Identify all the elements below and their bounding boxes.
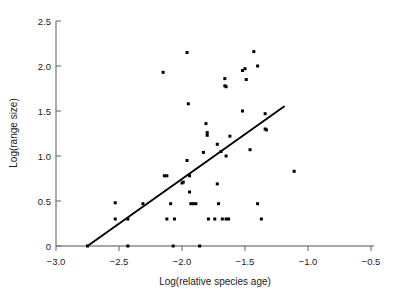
data-point xyxy=(213,218,216,221)
data-point xyxy=(228,135,231,138)
y-tick-label: 0 xyxy=(46,241,51,252)
data-point xyxy=(169,202,172,205)
plot-canvas: 2.5 2.0 1.5 1.0 0.5 0 −3.0 −2.5 −2.0 −1.… xyxy=(0,0,396,295)
data-points-group xyxy=(86,50,296,247)
data-point xyxy=(256,202,259,205)
x-axis-title: Log(relative species age) xyxy=(159,276,271,287)
data-point xyxy=(172,245,175,248)
data-point xyxy=(264,112,267,115)
y-axis-ticks xyxy=(56,21,61,246)
data-point xyxy=(206,131,209,134)
x-tick-label: −2.5 xyxy=(110,256,129,267)
data-point xyxy=(216,182,219,185)
y-tick-label: 1.5 xyxy=(38,106,51,117)
data-point xyxy=(293,170,296,173)
x-tick-label: −1.5 xyxy=(236,256,255,267)
x-axis-tick-labels: −3.0 −2.5 −2.0 −1.5 −1.0 −0.5 xyxy=(47,256,381,267)
data-point xyxy=(188,174,191,177)
data-point xyxy=(182,181,185,184)
data-point xyxy=(244,67,247,70)
data-point xyxy=(188,191,191,194)
data-point xyxy=(198,245,201,248)
x-tick-label: −2.0 xyxy=(173,256,192,267)
data-point xyxy=(207,218,210,221)
data-point xyxy=(162,71,165,74)
data-point xyxy=(126,245,129,248)
data-point xyxy=(225,155,228,158)
y-axis-title: Log(range size) xyxy=(8,98,19,167)
data-point xyxy=(260,218,263,221)
data-point xyxy=(221,218,224,221)
data-point xyxy=(186,159,189,162)
data-point xyxy=(114,218,117,221)
data-point xyxy=(223,77,226,80)
x-tick-label: −3.0 xyxy=(47,256,66,267)
regression-line xyxy=(88,107,285,247)
data-point xyxy=(249,148,252,151)
y-tick-label: 2.0 xyxy=(38,61,51,72)
data-point xyxy=(165,174,168,177)
data-point xyxy=(252,50,255,53)
data-point xyxy=(220,150,223,153)
data-point xyxy=(202,151,205,154)
x-axis-ticks xyxy=(56,246,371,251)
x-tick-label: −0.5 xyxy=(362,256,381,267)
data-point xyxy=(114,201,117,204)
x-tick-label: −1.0 xyxy=(299,256,318,267)
data-point xyxy=(204,122,207,125)
data-point xyxy=(256,65,259,68)
data-point xyxy=(206,134,209,137)
y-axis-tick-labels: 2.5 2.0 1.5 1.0 0.5 0 xyxy=(38,16,51,252)
scatter-plot-figure: 2.5 2.0 1.5 1.0 0.5 0 −3.0 −2.5 −2.0 −1.… xyxy=(0,0,396,295)
data-point xyxy=(217,202,220,205)
data-point xyxy=(187,102,190,105)
data-point xyxy=(126,218,129,221)
data-point xyxy=(86,245,89,248)
data-point xyxy=(265,128,268,131)
data-point xyxy=(245,78,248,81)
y-tick-label: 0.5 xyxy=(38,196,51,207)
data-point xyxy=(173,218,176,221)
data-point xyxy=(186,51,189,54)
data-point xyxy=(227,218,230,221)
data-point xyxy=(141,202,144,205)
data-point xyxy=(241,110,244,113)
data-point xyxy=(165,218,168,221)
data-point xyxy=(225,85,228,88)
y-tick-label: 2.5 xyxy=(38,16,51,27)
data-point xyxy=(216,143,219,146)
y-tick-label: 1.0 xyxy=(38,151,51,162)
data-point xyxy=(194,202,197,205)
